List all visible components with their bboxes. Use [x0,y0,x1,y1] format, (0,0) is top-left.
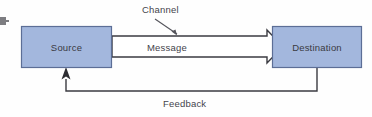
feedback-line-label: Feedback [163,99,206,109]
feedback-line [66,68,317,91]
channel-annotation-label: Channel [142,5,179,15]
destination-box-label: Destination [272,43,362,53]
page-margin-glyph-fragment [0,17,6,25]
diagram-canvas: Source Destination Message Channel Feedb… [0,0,372,117]
source-box-label: Source [21,43,112,53]
channel-leader-line [155,19,177,36]
feedback-path [62,67,318,91]
feedback-arrowhead [62,67,71,80]
message-arrow-shape [112,30,283,63]
message-arrow [112,30,283,63]
message-arrow-label: Message [147,43,187,53]
